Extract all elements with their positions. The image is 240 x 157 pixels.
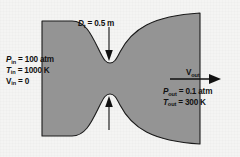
inlet-velocity-equals: = <box>16 77 25 86</box>
inlet-pressure-equals: = <box>16 55 25 64</box>
outlet-velocity-label: Vout <box>186 62 200 79</box>
outlet-pressure-subscript: out <box>168 91 176 97</box>
throat-dimension-arrow-down <box>105 27 113 61</box>
inlet-temperature-subscript: in <box>11 69 16 75</box>
inlet-conditions-label: Pin = 100 atm Tin = 1000 K Vin = 0 <box>6 56 54 88</box>
inlet-pressure-value: 100 atm <box>25 55 54 64</box>
outlet-velocity-subscript: out <box>191 72 199 78</box>
outlet-conditions-label: Pout = 0.1 atm Tout = 300 K <box>163 88 212 110</box>
outlet-temperature-value: 300 K <box>185 98 206 107</box>
inlet-pressure-line: Pin = 100 atm <box>6 56 54 65</box>
inlet-temperature-line: Tin = 1000 K <box>6 67 54 76</box>
throat-dimension-arrow-up <box>105 96 113 130</box>
outlet-pressure-line: Pout = 0.1 atm <box>163 88 212 97</box>
outlet-temperature-equals: = <box>176 98 185 107</box>
inlet-pressure-subscript: in <box>11 59 16 65</box>
outlet-temperature-subscript: out <box>168 101 176 107</box>
throat-symbol: D <box>78 19 84 28</box>
nozzle-figure: Dt = 0.5 m Pin = 100 atm Tin = 1000 K Vi… <box>0 0 240 157</box>
outlet-pressure-value: 0.1 atm <box>185 87 212 96</box>
inlet-velocity-value: 0 <box>25 77 29 86</box>
outlet-temperature-line: Tout = 300 K <box>163 99 212 108</box>
throat-value: 0.5 m <box>94 19 114 28</box>
throat-diameter-label: Dt = 0.5 m <box>78 13 114 30</box>
inlet-velocity-subscript: in <box>11 80 16 86</box>
inlet-temperature-value: 1000 K <box>24 66 49 75</box>
throat-equals: = <box>85 19 94 28</box>
inlet-velocity-line: Vin = 0 <box>6 78 54 87</box>
